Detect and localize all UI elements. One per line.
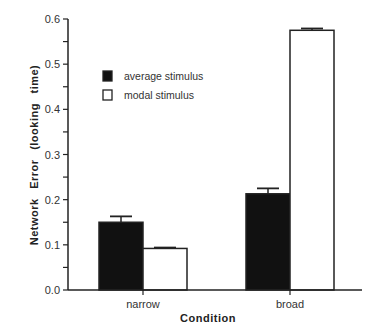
- legend-label: average stimulus: [124, 70, 203, 82]
- bar-broad-average: [246, 188, 290, 290]
- y-tick-label: 0.5: [45, 58, 60, 70]
- legend-item-modal: modal stimulus: [103, 89, 194, 101]
- y-tick-label: 0.0: [45, 284, 60, 296]
- legend-label: modal stimulus: [124, 89, 194, 101]
- y-tick-label: 0.3: [45, 149, 60, 161]
- y-axis-title: Network Error (looking time): [28, 65, 40, 246]
- x-axis-title: Condition: [180, 312, 236, 324]
- x-axis: narrowbroad: [68, 290, 362, 310]
- bar-narrow-average: [99, 216, 143, 290]
- y-tick-label: 0.6: [45, 13, 60, 25]
- bar-narrow-modal: [143, 248, 187, 290]
- legend-swatch: [103, 90, 112, 100]
- y-axis: 0.00.10.20.30.40.50.6: [45, 13, 68, 296]
- y-tick-label: 0.4: [45, 103, 60, 115]
- x-tick-label-broad: broad: [276, 298, 304, 310]
- bars: [99, 28, 334, 290]
- bar-chart: 0.00.10.20.30.40.50.6 narrowbroad averag…: [0, 0, 376, 334]
- y-tick-label: 0.2: [45, 194, 60, 206]
- legend-swatch: [103, 71, 112, 81]
- bar-broad-modal: [290, 28, 334, 290]
- x-tick-label-narrow: narrow: [126, 298, 160, 310]
- legend-item-average: average stimulus: [103, 70, 203, 82]
- y-tick-label: 0.1: [45, 239, 60, 251]
- legend: average stimulusmodal stimulus: [103, 70, 203, 101]
